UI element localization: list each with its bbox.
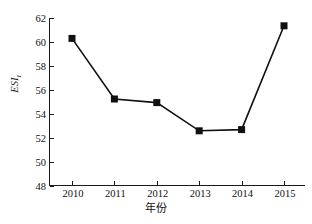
series-svg (50, 18, 306, 186)
series-line-esi (72, 26, 284, 131)
y-axis-title-subscript: I (15, 75, 23, 77)
y-axis-tick-label: 50 (36, 158, 47, 169)
x-axis-tick: 2011 (114, 181, 115, 185)
y-axis-tick-label: 62 (36, 14, 47, 25)
x-axis-tick-label: 2014 (232, 189, 253, 200)
data-point-marker (111, 96, 118, 103)
x-axis-tick: 2015 (284, 181, 285, 185)
x-axis-tick-label: 2013 (190, 189, 211, 200)
x-axis-tick: 2013 (199, 181, 200, 185)
x-axis-title: 年份 (0, 203, 312, 214)
x-axis-tick-label: 2012 (147, 189, 168, 200)
y-axis-tick: 56 (50, 90, 54, 91)
y-axis-title-main: ESI (9, 78, 20, 93)
x-axis-tick: 2012 (157, 181, 158, 185)
y-axis-tick-label: 48 (36, 182, 47, 193)
y-axis-tick: 54 (50, 114, 54, 115)
y-axis-tick: 48 (50, 186, 54, 187)
y-axis-tick: 52 (50, 138, 54, 139)
y-axis-tick: 50 (50, 162, 54, 163)
y-axis-title: ESII (10, 75, 23, 93)
chart-container: ESII 48505254565860622010201120122013201… (0, 0, 312, 224)
x-axis-tick: 2010 (72, 181, 73, 185)
y-axis-tick: 58 (50, 66, 54, 67)
y-axis-tick-label: 54 (36, 110, 47, 121)
x-axis-tick-label: 2010 (63, 189, 84, 200)
data-point-marker (281, 22, 288, 29)
x-axis-tick-label: 2011 (105, 189, 126, 200)
x-axis-tick-label: 2015 (275, 189, 296, 200)
data-point-marker (153, 99, 160, 106)
data-point-marker (69, 35, 76, 42)
plot-area: 4850525456586062201020112012201320142015 (49, 18, 305, 186)
y-axis-tick-label: 52 (36, 134, 47, 145)
y-axis-tick-label: 58 (36, 62, 47, 73)
y-axis-tick-label: 56 (36, 86, 47, 97)
data-point-marker (196, 127, 203, 134)
x-axis-tick: 2014 (242, 181, 243, 185)
y-axis-tick: 62 (50, 18, 54, 19)
y-axis-tick: 60 (50, 42, 54, 43)
y-axis-tick-label: 60 (36, 38, 47, 49)
data-point-marker (238, 126, 245, 133)
